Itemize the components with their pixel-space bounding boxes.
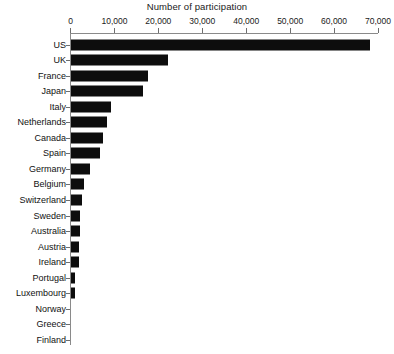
bar bbox=[71, 39, 370, 50]
x-axis-tick bbox=[114, 28, 115, 33]
bar bbox=[71, 195, 82, 206]
bar bbox=[71, 241, 79, 252]
bar bbox=[71, 226, 80, 237]
y-axis-category-label: Spain bbox=[43, 148, 66, 158]
y-axis-tick bbox=[66, 122, 70, 123]
bar bbox=[71, 163, 90, 174]
y-axis-category-label: Ireland bbox=[38, 257, 66, 267]
bar bbox=[71, 257, 79, 268]
y-axis-category-label: Japan bbox=[41, 86, 66, 96]
x-axis-tick bbox=[158, 28, 159, 33]
y-axis-category-label: France bbox=[38, 71, 66, 81]
bar bbox=[71, 55, 168, 66]
y-axis-tick bbox=[66, 262, 70, 263]
y-axis-category-label: Netherlands bbox=[17, 117, 66, 127]
y-axis-tick bbox=[66, 60, 70, 61]
y-axis-tick bbox=[66, 216, 70, 217]
y-axis-category-label: Portugal bbox=[32, 273, 66, 283]
x-axis-tick-label: 0 bbox=[68, 16, 73, 26]
bar bbox=[71, 117, 107, 128]
y-axis-category-label: Belgium bbox=[33, 179, 66, 189]
bar bbox=[71, 132, 103, 143]
y-axis-category-label: Luxembourg bbox=[16, 288, 66, 298]
y-axis-tick bbox=[66, 340, 70, 341]
x-axis-line bbox=[70, 33, 378, 34]
y-axis-tick bbox=[66, 324, 70, 325]
x-axis-tick-label: 30,000 bbox=[189, 16, 215, 26]
y-axis-category-label: Italy bbox=[49, 102, 66, 112]
y-axis-category-label: Austria bbox=[38, 242, 66, 252]
x-axis-tick-label: 40,000 bbox=[233, 16, 259, 26]
bar bbox=[71, 101, 111, 112]
x-axis-tick-label: 10,000 bbox=[101, 16, 127, 26]
x-axis-tick bbox=[290, 28, 291, 33]
y-axis-category-label: Canada bbox=[34, 133, 66, 143]
y-axis-tick bbox=[66, 247, 70, 248]
y-axis-tick bbox=[66, 169, 70, 170]
y-axis-tick bbox=[66, 309, 70, 310]
y-axis-category-label: Finland bbox=[36, 335, 66, 345]
y-axis-tick bbox=[66, 293, 70, 294]
bar bbox=[71, 288, 75, 299]
x-axis-tick-label: 70,000 bbox=[365, 16, 391, 26]
bar bbox=[71, 272, 75, 283]
x-axis-tick-label: 50,000 bbox=[277, 16, 303, 26]
y-axis-category-label: Switzerland bbox=[19, 195, 66, 205]
x-axis-tick bbox=[246, 28, 247, 33]
bar bbox=[71, 86, 143, 97]
x-axis-tick bbox=[334, 28, 335, 33]
bar bbox=[71, 179, 84, 190]
bar bbox=[71, 210, 80, 221]
y-axis-tick bbox=[66, 107, 70, 108]
x-axis-tick-label: 60,000 bbox=[321, 16, 347, 26]
y-axis-tick bbox=[66, 200, 70, 201]
y-axis-category-label: Norway bbox=[35, 304, 66, 314]
y-axis-tick bbox=[66, 184, 70, 185]
y-axis-tick bbox=[66, 153, 70, 154]
y-axis-category-label: US bbox=[53, 40, 66, 50]
x-axis-tick-label: 20,000 bbox=[145, 16, 171, 26]
y-axis-tick bbox=[66, 91, 70, 92]
y-axis-category-label: Greece bbox=[36, 319, 66, 329]
y-axis-category-label: Australia bbox=[31, 226, 66, 236]
x-axis-tick bbox=[202, 28, 203, 33]
bar bbox=[71, 70, 148, 81]
y-axis-tick bbox=[66, 138, 70, 139]
y-axis-tick bbox=[66, 231, 70, 232]
x-axis-tick bbox=[378, 28, 379, 33]
y-axis-category-label: Sweden bbox=[33, 211, 66, 221]
x-axis-tick bbox=[70, 28, 71, 33]
y-axis-category-label: Germany bbox=[29, 164, 66, 174]
y-axis-category-label: UK bbox=[53, 55, 66, 65]
bar bbox=[71, 148, 100, 159]
bar-chart: Number of participation 010,00020,00030,… bbox=[0, 0, 394, 354]
plot-area: 010,00020,00030,00040,00050,00060,00070,… bbox=[0, 0, 394, 354]
y-axis-tick bbox=[66, 45, 70, 46]
y-axis-tick bbox=[66, 76, 70, 77]
y-axis-tick bbox=[66, 278, 70, 279]
